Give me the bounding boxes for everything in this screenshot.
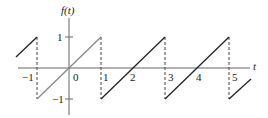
y-tick-label-neg1: −1: [52, 93, 64, 105]
x-tick-label-0: 0: [73, 71, 79, 83]
x-tick-label-4: 4: [196, 71, 202, 83]
x-tick-label-5: 5: [232, 71, 238, 83]
x-tick-label-2: 2: [130, 71, 136, 83]
x-tick-label-neg1: −1: [22, 71, 34, 83]
x-axis-label: t: [253, 60, 257, 72]
x-tick-label-1: 1: [103, 71, 109, 83]
y-axis-label: f(t): [61, 4, 75, 17]
x-tick-label-3: 3: [168, 71, 174, 83]
y-tick-label-1: 1: [57, 31, 63, 43]
sawtooth-chart: f(t) t −1 0 1 2 3 4 5 1 −1: [0, 0, 268, 118]
